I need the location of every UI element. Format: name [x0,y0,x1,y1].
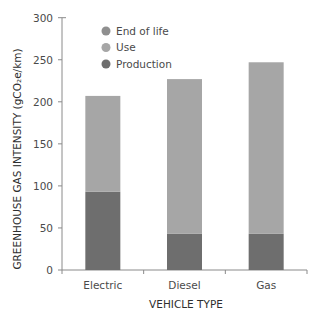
y-tick-label: 0 [46,264,53,276]
bars [85,62,283,270]
bar-segment-use [167,79,202,234]
legend-label: Use [116,41,136,53]
bar-segment-use [249,62,284,234]
x-category-label: Diesel [168,279,200,291]
legend-swatch-icon [102,43,111,52]
bar-diesel [167,79,202,270]
legend-label: Production [116,58,172,70]
bar-electric [85,96,120,270]
bar-gas [249,62,284,270]
y-axis: 050100150200250300 [33,12,66,276]
bar-segment-production [85,192,120,270]
y-tick-label: 300 [33,12,53,24]
y-tick-label: 150 [33,138,53,150]
y-axis-title: GREENHOUSE GAS INTENSITY (gCO₂e/km) [11,48,23,269]
bar-segment-production [249,234,284,270]
bar-segment-production [167,234,202,270]
y-tick-label: 250 [33,54,53,66]
bar-segment-use [85,96,120,192]
y-tick-label: 50 [40,222,53,234]
x-category-label: Electric [83,279,122,291]
legend-swatch-icon [102,27,111,36]
stacked-bar-chart: 050100150200250300 ElectricDieselGas End… [0,0,324,319]
x-axis-title: VEHICLE TYPE [149,298,223,310]
y-tick-label: 100 [33,180,53,192]
legend-swatch-icon [102,60,111,69]
legend: End of lifeUseProduction [102,25,172,70]
x-category-label: Gas [256,279,276,291]
x-axis: ElectricDieselGas [62,270,307,291]
legend-label: End of life [116,25,169,37]
y-tick-label: 200 [33,96,53,108]
